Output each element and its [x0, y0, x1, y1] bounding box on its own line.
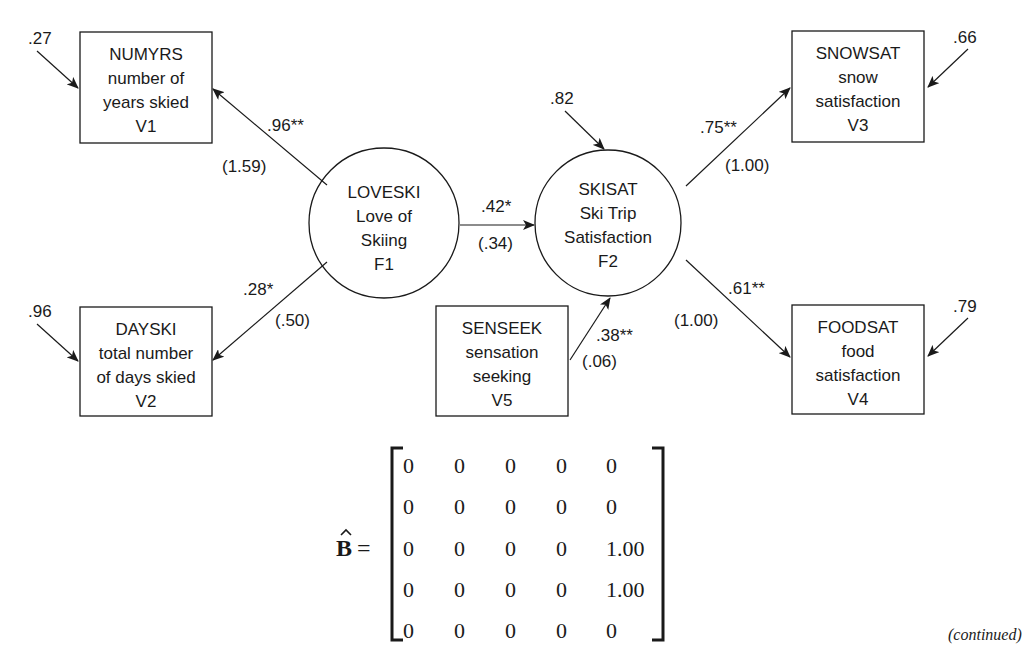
path-f1-f2-unstd: (.34) [478, 234, 513, 253]
matrix-row-3: 0 0 0 0 1.00 [403, 536, 645, 561]
node-v2-desc-1: total number [99, 344, 194, 363]
error-v1-arrow [37, 51, 78, 88]
matrix-row-5: 0 0 0 0 0 [403, 618, 617, 643]
matrix-cell: 0 [454, 536, 465, 561]
right-bracket [652, 448, 663, 640]
matrix-cell: 0 [606, 494, 617, 519]
node-v1-numyrs: NUMYRS number of years skied V1 [80, 32, 212, 143]
path-v5-f2-std: .38** [596, 326, 633, 345]
error-v3-arrow [928, 49, 968, 87]
node-v3-snowsat: SNOWSAT snow satisfaction V3 [792, 31, 924, 142]
node-v5-name: SENSEEK [462, 319, 543, 338]
node-v2-name: DAYSKI [115, 320, 176, 339]
node-v1-id: V1 [136, 117, 157, 136]
node-v3-id: V3 [848, 116, 869, 135]
matrix-cell: 0 [556, 494, 567, 519]
matrix-cell: 0 [606, 453, 617, 478]
matrix-cell: 0 [606, 618, 617, 643]
matrix-cell: 0 [403, 618, 414, 643]
path-f2-v4-unstd: (1.00) [674, 311, 718, 330]
matrix-row-1: 0 0 0 0 0 [403, 453, 617, 478]
node-f2-name: SKISAT [578, 180, 637, 199]
node-v4-foodsat: FOODSAT food satisfaction V4 [792, 305, 924, 414]
node-f2-desc-1: Ski Trip [580, 204, 637, 223]
error-v2-label: .96 [28, 302, 52, 321]
path-f2-v3-unstd: (1.00) [725, 156, 769, 175]
matrix-cell: 0 [454, 577, 465, 602]
error-v3-label: .66 [953, 28, 977, 47]
node-v4-id: V4 [848, 390, 869, 409]
node-f1-loveski: LOVESKI Love of Skiing F1 [309, 148, 459, 298]
node-v2-desc-2: of days skied [96, 368, 195, 387]
node-f1-id: F1 [374, 255, 394, 274]
matrix-cell: 1.00 [606, 577, 645, 602]
matrix-symbol: B [336, 535, 352, 561]
node-f1-name: LOVESKI [348, 183, 421, 202]
continued-label: (continued) [948, 626, 1022, 644]
node-v1-name: NUMYRS [109, 45, 183, 64]
node-f2-id: F2 [598, 252, 618, 271]
path-f2-v4-std: .61** [728, 279, 765, 298]
node-v4-desc-1: food [841, 342, 874, 361]
path-f2-v4-arrow [686, 260, 790, 357]
error-v4-label: .79 [953, 297, 977, 316]
path-f1-v2-std: .28* [243, 280, 274, 299]
node-v3-name: SNOWSAT [816, 44, 901, 63]
node-f1-desc-1: Love of [356, 207, 412, 226]
node-f2-desc-2: Satisfaction [564, 228, 652, 247]
matrix-cell: 0 [505, 618, 516, 643]
matrix-cell: 0 [403, 494, 414, 519]
path-v5-f2-unstd: (.06) [582, 352, 617, 371]
path-f1-v2-unstd: (.50) [275, 311, 310, 330]
path-f2-v3-std: .75** [700, 118, 737, 137]
b-hat-matrix: B = 0 0 0 0 0 0 0 0 0 0 0 0 0 0 1.00 [336, 448, 663, 643]
matrix-cell: 0 [454, 618, 465, 643]
matrix-cell: 0 [403, 536, 414, 561]
matrix-cell: 0 [403, 453, 414, 478]
node-v2-id: V2 [136, 392, 157, 411]
node-f2-skisat: SKISAT Ski Trip Satisfaction F2 [535, 150, 681, 296]
matrix-equals: = [357, 535, 371, 561]
node-v3-desc-1: snow [838, 68, 878, 87]
matrix-cell: 0 [505, 453, 516, 478]
error-v2-arrow [37, 324, 78, 361]
matrix-cell: 0 [403, 577, 414, 602]
matrix-cell: 0 [556, 453, 567, 478]
node-v5-desc-2: seeking [473, 367, 532, 386]
matrix-cell: 0 [505, 494, 516, 519]
node-v4-name: FOODSAT [818, 318, 899, 337]
error-v1-label: .27 [28, 29, 52, 48]
disturbance-f2-label: .82 [550, 89, 574, 108]
matrix-cell: 0 [556, 577, 567, 602]
disturbance-f2-arrow [565, 111, 604, 149]
matrix-row-2: 0 0 0 0 0 [403, 494, 617, 519]
node-v2-dayski: DAYSKI total number of days skied V2 [80, 307, 212, 416]
matrix-cell: 0 [454, 494, 465, 519]
node-v3-desc-2: satisfaction [815, 92, 900, 111]
node-v5-id: V5 [492, 391, 513, 410]
matrix-cell: 0 [505, 577, 516, 602]
matrix-cell: 0 [505, 536, 516, 561]
matrix-cell: 0 [454, 453, 465, 478]
path-f1-v1-unstd: (1.59) [222, 157, 266, 176]
error-v4-arrow [928, 318, 968, 356]
path-f1-v1-std: .96** [267, 116, 304, 135]
matrix-cell: 0 [556, 618, 567, 643]
matrix-cell: 0 [556, 536, 567, 561]
node-v4-desc-2: satisfaction [815, 366, 900, 385]
node-f1-desc-2: Skiing [361, 231, 407, 250]
path-f1-f2-std: .42* [481, 197, 512, 216]
node-v5-senseek: SENSEEK sensation seeking V5 [436, 306, 568, 416]
matrix-row-4: 0 0 0 0 1.00 [403, 577, 645, 602]
node-v5-desc-1: sensation [466, 343, 539, 362]
matrix-cell: 1.00 [606, 536, 645, 561]
node-v1-desc-2: years skied [103, 93, 189, 112]
node-v1-desc-1: number of [108, 69, 185, 88]
left-bracket [392, 448, 403, 640]
